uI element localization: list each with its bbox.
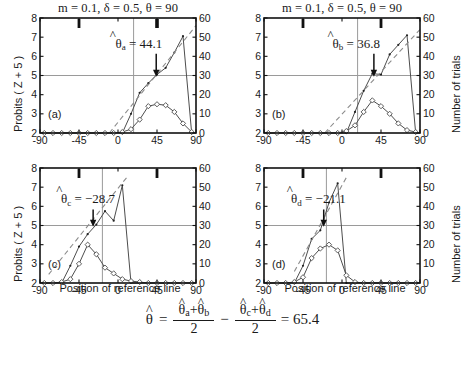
marker-diamond <box>102 265 107 270</box>
x-tick-label: -45 <box>71 284 86 296</box>
marker-dot <box>337 182 339 184</box>
marker-dot <box>87 233 89 235</box>
panel-d: Number of trials Position of reference l… <box>232 150 465 300</box>
y-tick-label-right: 30 <box>423 69 435 81</box>
marker-diamond <box>137 279 142 284</box>
y-tick-label-left: 6 <box>255 200 261 212</box>
panel-a: m = 0.1, δ = 0.5, θ = 90 Probits ( Z + 5… <box>0 0 232 150</box>
marker-diamond <box>120 277 125 282</box>
hat-accent-icon: ^ <box>259 295 266 308</box>
y-tick-label-left: 8 <box>31 162 37 174</box>
y-tick-label-right: 0 <box>199 127 205 139</box>
x-tick-label: 45 <box>151 134 163 146</box>
y-tick-label-left: 4 <box>31 238 37 250</box>
y-tick-label-left: 2 <box>31 277 37 289</box>
y-tick-label-left: 5 <box>255 219 261 231</box>
y-tick-label-left: 2 <box>31 127 37 139</box>
estimate-annotation: θb = 36.8^ <box>327 27 379 77</box>
equation-minus: − <box>219 311 229 328</box>
marker-dot <box>406 34 408 36</box>
estimate-equals: = 36.8 <box>343 36 380 51</box>
panel-a-plot[interactable]: -90-450459023456780102030405060(a)θa = 4… <box>0 0 232 150</box>
estimate-equals: = −21.1 <box>302 191 346 206</box>
panel-letter: (a) <box>48 108 61 120</box>
y-tick-label-right: 0 <box>199 277 205 289</box>
y-tick-label-left: 5 <box>255 69 261 81</box>
series-trials-count <box>268 245 415 283</box>
y-tick-label-left: 6 <box>31 200 37 212</box>
marker-dot <box>78 245 80 247</box>
y-tick-label-right: 30 <box>199 219 211 231</box>
y-tick-label-left: 8 <box>255 162 261 174</box>
marker-dot <box>354 111 356 113</box>
estimate-equals: = −28.7 <box>71 191 115 206</box>
marker-dot <box>363 90 365 92</box>
y-tick-label-right: 30 <box>423 219 435 231</box>
y-tick-label-right: 20 <box>199 88 211 100</box>
y-tick-label-right: 50 <box>199 181 211 193</box>
estimate-label: θb = 36.8 <box>333 36 380 53</box>
panel-b-plot[interactable]: -90-450459023456780102030405060(b)θb = 3… <box>232 0 465 150</box>
estimate-label: θa = 44.1 <box>115 36 162 53</box>
marker-diamond <box>335 248 340 253</box>
y-tick-label-right: 30 <box>199 69 211 81</box>
y-tick-label-right: 60 <box>423 162 435 174</box>
hat-accent-icon: ^ <box>327 27 333 42</box>
x-tick-label: 45 <box>151 284 163 296</box>
probit-figure: m = 0.1, δ = 0.5, θ = 90 Probits ( Z + 5… <box>0 0 465 367</box>
estimate-equals: = 44.1 <box>126 36 163 51</box>
hat-accent-icon: ^ <box>110 27 116 42</box>
y-tick-label-left: 5 <box>31 219 37 231</box>
marker-dot <box>165 67 167 69</box>
x-tick-label: 0 <box>339 284 345 296</box>
panel-b: m = 0.1, δ = 0.5, θ = 90 Number of trial… <box>232 0 465 150</box>
equation-numerator-ab: ^θa+^θb <box>173 303 214 320</box>
y-tick-label-right: 10 <box>423 107 435 119</box>
y-tick-label-left: 3 <box>31 107 37 119</box>
marker-dot <box>182 35 184 37</box>
marker-dot <box>130 113 132 115</box>
panel-c-plot[interactable]: -90-450459023456780102030405060(c)θc = −… <box>0 150 232 300</box>
marker-dot <box>121 184 123 186</box>
y-tick-label-right: 10 <box>423 257 435 269</box>
y-tick-label-left: 8 <box>255 12 261 24</box>
series-probit-data <box>44 36 191 133</box>
equation-lhs-theta: ^θ <box>146 311 153 328</box>
marker-dot <box>302 265 304 267</box>
marker-dot <box>319 229 321 231</box>
marker-diamond <box>146 104 151 109</box>
hat-accent-icon: ^ <box>56 182 62 197</box>
equation-denominator-ab: 2 <box>185 321 202 337</box>
x-tick-label: 0 <box>115 284 121 296</box>
panel-grid: m = 0.1, δ = 0.5, θ = 90 Probits ( Z + 5… <box>0 0 465 300</box>
y-tick-label-right: 20 <box>423 238 435 250</box>
y-tick-label-right: 50 <box>423 181 435 193</box>
theta-estimate-equation: ^θ = ^θa+^θb 2 − ^θc+^θd 2 = 65.4 <box>0 303 465 337</box>
y-tick-label-left: 2 <box>255 127 261 139</box>
y-tick-label-right: 0 <box>423 127 429 139</box>
equation-fraction-ab: ^θa+^θb 2 <box>173 303 214 337</box>
marker-dot <box>397 44 399 46</box>
x-tick-label: -45 <box>71 134 86 146</box>
y-tick-label-right: 60 <box>199 12 211 24</box>
x-tick-label: -45 <box>295 134 310 146</box>
y-tick-label-left: 4 <box>255 88 261 100</box>
marker-diamond <box>300 275 305 280</box>
y-tick-label-left: 2 <box>255 277 261 289</box>
series-trials-count <box>268 100 415 133</box>
equation-fraction-cd: ^θc+^θd 2 <box>235 303 276 337</box>
panel-letter: (b) <box>272 108 285 120</box>
marker-diamond <box>111 271 116 276</box>
hat-accent-icon: ^ <box>198 295 205 308</box>
y-tick-label-left: 5 <box>31 69 37 81</box>
marker-dot <box>69 265 71 267</box>
y-tick-label-right: 40 <box>423 50 435 62</box>
y-tick-label-left: 7 <box>31 31 37 43</box>
y-tick-label-left: 7 <box>255 31 261 43</box>
y-tick-label-right: 60 <box>423 12 435 24</box>
y-tick-label-right: 0 <box>423 277 429 289</box>
equation-denominator-cd: 2 <box>247 321 264 337</box>
y-tick-label-right: 10 <box>199 107 211 119</box>
x-tick-label: 45 <box>375 284 387 296</box>
panel-d-plot[interactable]: -90-450459023456780102030405060(d)θd = −… <box>232 150 465 300</box>
